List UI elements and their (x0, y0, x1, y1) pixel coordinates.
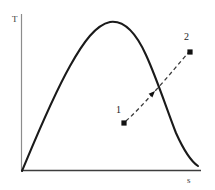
process-line-1-2 (126, 52, 189, 121)
saturation-dome-curve (22, 22, 198, 171)
state-point-2-label: 2 (184, 32, 189, 42)
state-point-1-marker (121, 120, 126, 125)
state-point-2-marker (187, 49, 192, 54)
ts-diagram: T s 1 2 (0, 0, 215, 190)
ts-diagram-canvas (0, 0, 215, 190)
y-axis-label: T (12, 15, 18, 24)
state-point-1-label: 1 (116, 105, 121, 115)
x-axis-label: s (187, 176, 191, 185)
